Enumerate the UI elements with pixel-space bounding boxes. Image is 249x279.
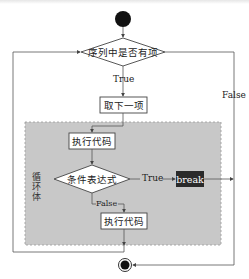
expr-true-label: True (142, 174, 163, 183)
loop-condition-label: 序列中是否有项 (81, 45, 165, 59)
condition-expression-label: 条件表达式 (54, 172, 130, 186)
loop-true-label: True (113, 75, 134, 84)
flowchart-canvas (0, 0, 249, 279)
loop-body-label: 循环体 (31, 172, 40, 202)
next-item-label: 取下一项 (100, 97, 147, 113)
loop-false-label: False (222, 91, 246, 100)
start-node (115, 11, 131, 27)
exec-code-2-label: 执行代码 (101, 213, 147, 229)
break-label: break (176, 171, 204, 187)
expr-false-label: False (96, 200, 117, 208)
exec-code-1-label: 执行代码 (69, 133, 115, 149)
